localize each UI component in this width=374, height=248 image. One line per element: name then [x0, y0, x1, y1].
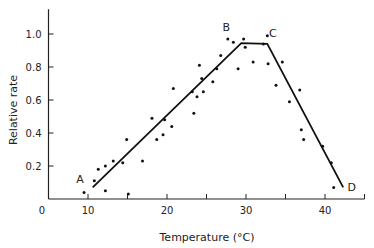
data-points: [83, 34, 336, 195]
data-point: [244, 46, 247, 49]
data-point: [262, 42, 265, 45]
y-tick-label: 1.0: [26, 29, 42, 40]
point-annotations: ABCD: [76, 21, 356, 194]
data-point: [192, 112, 195, 115]
data-point: [125, 138, 128, 141]
data-point: [141, 160, 144, 163]
annotation-c: C: [269, 27, 277, 40]
data-point: [191, 90, 194, 93]
x-tick-label: 30: [240, 205, 253, 216]
y-axis: 0.20.40.60.81.0: [26, 9, 54, 199]
x-axis-label: Temperature (°C): [159, 231, 255, 244]
data-point: [267, 62, 270, 65]
data-point: [97, 168, 100, 171]
fitted-line: [93, 43, 344, 187]
data-point: [196, 95, 199, 98]
data-point: [112, 160, 115, 163]
data-point: [281, 61, 284, 64]
data-point: [172, 87, 175, 90]
y-tick-label: 0.6: [26, 95, 42, 106]
data-point: [202, 90, 205, 93]
data-point: [200, 77, 203, 80]
data-point: [163, 118, 166, 121]
data-point: [298, 89, 301, 92]
data-point: [226, 37, 229, 40]
data-point: [93, 179, 96, 182]
annotation-a: A: [76, 173, 84, 186]
rate-vs-temperature-chart: 0.20.40.60.81.0 10203040 0 Relative rate…: [0, 0, 374, 248]
x-tick-label: 20: [161, 205, 174, 216]
data-point: [127, 193, 130, 196]
data-point: [288, 100, 291, 103]
data-point: [215, 67, 218, 70]
data-point: [162, 133, 165, 136]
y-tick-label: 0.8: [26, 62, 42, 73]
data-point: [155, 138, 158, 141]
data-point: [232, 41, 235, 44]
data-point: [104, 165, 107, 168]
data-point: [219, 54, 222, 57]
data-point: [300, 128, 303, 131]
x-tick-label: 40: [319, 205, 332, 216]
data-point: [211, 80, 214, 83]
x-axis: 10203040: [49, 194, 365, 216]
origin-label: 0: [39, 205, 45, 216]
y-tick-label: 0.2: [26, 161, 42, 172]
annotation-b: B: [222, 21, 230, 34]
data-point: [83, 191, 86, 194]
x-tick-label: 10: [82, 205, 95, 216]
data-point: [242, 37, 245, 40]
data-point: [321, 145, 324, 148]
data-point: [121, 161, 124, 164]
fitted-line-path: [93, 43, 344, 187]
data-point: [104, 189, 107, 192]
data-point: [198, 64, 201, 67]
data-point: [302, 138, 305, 141]
data-point: [237, 67, 240, 70]
data-point: [252, 61, 255, 64]
y-axis-label: Relative rate: [7, 75, 20, 145]
annotation-d: D: [348, 181, 356, 194]
data-point: [150, 117, 153, 120]
data-point: [170, 125, 173, 128]
y-tick-label: 0.4: [26, 128, 42, 139]
data-point: [332, 186, 335, 189]
data-point: [275, 84, 278, 87]
data-point: [330, 161, 333, 164]
